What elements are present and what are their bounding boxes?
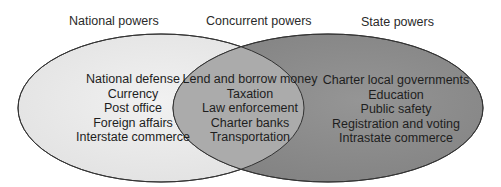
state-powers-title: State powers bbox=[361, 15, 434, 29]
state-item: Charter local governments bbox=[311, 73, 481, 88]
concurrent-item: Law enforcement bbox=[170, 101, 330, 116]
concurrent-item: Taxation bbox=[170, 87, 330, 102]
concurrent-item: Transportation bbox=[170, 130, 330, 145]
state-item: Registration and voting bbox=[311, 117, 481, 132]
state-item: Education bbox=[311, 88, 481, 103]
state-item: Intrastate commerce bbox=[311, 131, 481, 146]
concurrent-powers-list: Lend and borrow money Taxation Law enfor… bbox=[170, 72, 330, 145]
state-item: Public safety bbox=[311, 102, 481, 117]
concurrent-item: Lend and borrow money bbox=[170, 72, 330, 87]
state-powers-list: Charter local governments Education Publ… bbox=[311, 73, 481, 146]
concurrent-item: Charter banks bbox=[170, 116, 330, 131]
national-powers-title: National powers bbox=[69, 14, 159, 28]
concurrent-powers-title: Concurrent powers bbox=[206, 14, 312, 28]
